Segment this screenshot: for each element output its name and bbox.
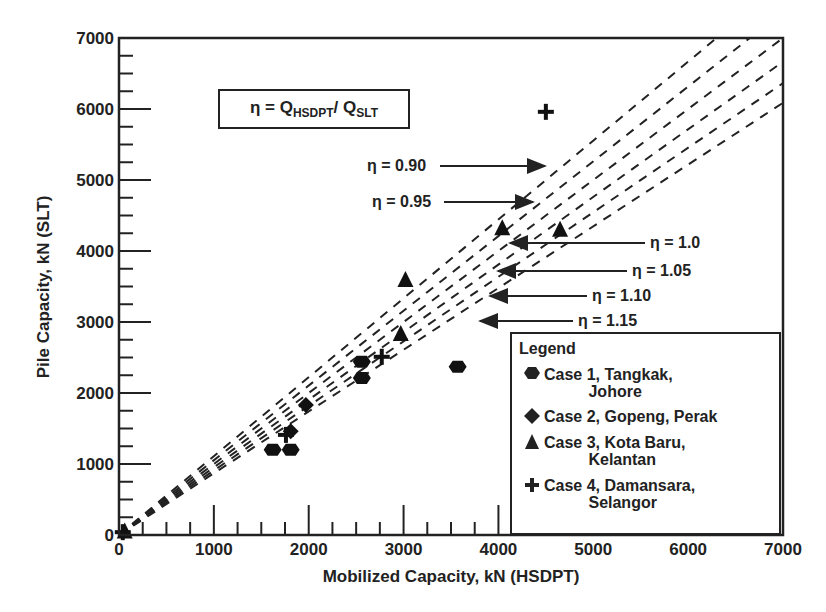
eta-label: η = 0.90 (367, 157, 426, 174)
x-tick-label: 6000 (669, 540, 707, 559)
y-tick-label: 3000 (76, 313, 114, 332)
legend-title: Legend (519, 340, 576, 358)
formula-sub-hsdpt: HSDPT (293, 106, 334, 120)
y-tick-label: 4000 (76, 242, 114, 261)
formula-sub-slt: SLT (356, 106, 378, 120)
x-tick-label: 2000 (290, 540, 328, 559)
cross-marker (538, 110, 554, 114)
x-tick-label: 3000 (385, 540, 423, 559)
y-tick-label: 0 (105, 526, 114, 545)
eta-formula-box: η = QHSDPT/ QSLT (218, 89, 410, 129)
formula-eta: η = (250, 98, 280, 117)
legend-item-case-3: Case 3, Kota Baru, Kelantan (524, 434, 685, 468)
triangle-marker (552, 221, 568, 237)
formula-slash: / (334, 98, 343, 117)
eta-label: η = 1.10 (592, 287, 651, 304)
eta-annotations: η = 0.90η = 0.95η = 1.0η = 1.05η = 1.10η… (367, 157, 700, 329)
triangle-marker (397, 271, 413, 287)
y-tick-label: 2000 (76, 384, 114, 403)
y-tick-label: 7000 (76, 29, 114, 48)
hexagon-marker-icon (524, 366, 540, 383)
legend-item-case-2: Case 2, Gopeng, Perak (524, 408, 717, 427)
x-tick-label: 5000 (574, 540, 612, 559)
x-tick-label: 7000 (764, 540, 802, 559)
hexagon-marker (449, 361, 467, 373)
cross-marker (278, 433, 294, 437)
triangle-marker (494, 219, 510, 235)
legend: Legend Case 1, Tangkak, Johore Case 2, G… (510, 332, 781, 535)
cross-marker-icon (524, 477, 540, 496)
y-axis-label: Pile Capacity, kN (SLT) (34, 196, 53, 379)
cross-marker (115, 530, 131, 534)
diamond-marker-icon (524, 408, 540, 427)
legend-item-case-1: Case 1, Tangkak, Johore (524, 366, 673, 400)
legend-item-case-4: Case 4, Damansara, Selangor (524, 477, 695, 511)
eta-label: η = 1.0 (650, 234, 700, 251)
eta-label: η = 1.05 (632, 262, 691, 279)
eta-label: η = 1.15 (578, 312, 637, 329)
x-tick-label: 4000 (480, 540, 518, 559)
x-axis-label: Mobilized Capacity, kN (HSDPT) (323, 567, 580, 586)
hexagon-marker (282, 444, 300, 456)
eta-label: η = 0.95 (372, 193, 431, 210)
cross-marker (374, 355, 390, 359)
x-tick-label: 1000 (195, 540, 233, 559)
y-tick-label: 5000 (76, 171, 114, 190)
formula-q1: Q (280, 98, 293, 117)
hexagon-marker (264, 444, 282, 456)
triangle-marker-icon (524, 434, 540, 453)
y-tick-label: 1000 (76, 455, 114, 474)
formula-q2: Q (343, 98, 356, 117)
x-tick-label: 0 (114, 540, 123, 559)
y-tick-label: 6000 (76, 100, 114, 119)
